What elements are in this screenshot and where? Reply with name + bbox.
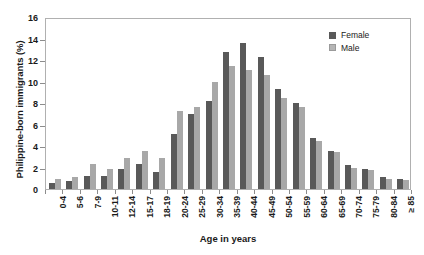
x-tick-mark [132,190,133,194]
bar-male [177,111,183,189]
x-tick-mark [341,190,342,194]
bar-male [403,180,409,189]
bar-male [107,169,113,189]
bar-male [72,177,78,189]
x-tick-label: 45-49 [267,196,277,236]
bar-group [98,19,115,189]
bar-male [229,66,235,189]
x-tick-label: 18-19 [162,196,172,236]
x-tick-mark [306,190,307,194]
bar-male [386,179,392,189]
bar-male [246,70,252,189]
y-tick-label: 0 [12,185,38,195]
bar-male [281,98,287,189]
bar-group [290,19,307,189]
bar-group [203,19,220,189]
x-tick-label: 75-79 [371,196,381,236]
x-tick-label: 10-11 [110,196,120,236]
bar-male [159,158,165,189]
x-tick-label: ≥ 85 [406,196,416,236]
x-tick-label: 15-17 [145,196,155,236]
bar-group [116,19,133,189]
legend-item-male: Male [329,44,369,53]
x-tick-label: 35-39 [232,196,242,236]
bar-male [55,179,61,189]
legend-item-female: Female [329,31,369,40]
x-tick-label: 20-24 [180,196,190,236]
x-tick-mark [289,190,290,194]
bar-male [212,82,218,190]
bar-male [264,75,270,189]
x-tick-mark [97,190,98,194]
x-tick-mark [219,190,220,194]
bar-male [142,151,148,189]
x-tick-mark [254,190,255,194]
y-tick-label: 16 [12,13,38,23]
x-tick-mark [324,190,325,194]
legend-swatch-male-icon [329,44,336,51]
x-tick-mark [167,190,168,194]
bar-male [316,141,322,189]
bar-group [220,19,237,189]
x-tick-mark [45,190,46,194]
y-tick-label: 8 [12,99,38,109]
bar-group [395,19,412,189]
bar-male [90,164,96,189]
y-tick-label: 4 [12,142,38,152]
bar-group [307,19,324,189]
x-tick-mark [376,190,377,194]
y-tick-label: 10 [12,78,38,88]
chart-legend: Female Male [329,31,369,56]
x-tick-label: 70-74 [354,196,364,236]
x-tick-mark [237,190,238,194]
bar-group [377,19,394,189]
x-tick-label: 65-69 [337,196,347,236]
x-tick-label: 7-9 [93,196,103,236]
x-tick-label: 50-54 [284,196,294,236]
bar-male [124,158,130,189]
x-tick-mark [80,190,81,194]
x-tick-mark [150,190,151,194]
x-tick-mark [394,190,395,194]
x-axis-title: Age in years [45,233,411,244]
bar-male [334,152,340,189]
bar-group [46,19,63,189]
x-tick-mark [62,190,63,194]
bar-male [194,107,200,189]
x-tick-mark [359,190,360,194]
y-tick-label: 12 [12,56,38,66]
bar-group [151,19,168,189]
x-tick-label: 80-84 [389,196,399,236]
bar-group [81,19,98,189]
x-tick-label: 55-59 [302,196,312,236]
bar-group [273,19,290,189]
legend-label-male: Male [341,44,359,53]
legend-swatch-female-icon [329,32,336,39]
chart-figure: Philippine-born immigrants (%) 024681012… [0,0,424,255]
x-tick-label: 25-29 [197,196,207,236]
y-tick-label: 6 [12,121,38,131]
bar-group [185,19,202,189]
x-tick-mark [272,190,273,194]
bar-group [63,19,80,189]
bar-male [368,170,374,189]
bar-group [133,19,150,189]
x-tick-label: 12-14 [127,196,137,236]
x-tick-label: 5-6 [75,196,85,236]
bar-group [255,19,272,189]
bar-group [168,19,185,189]
bar-male [351,168,357,190]
bar-group [238,19,255,189]
x-tick-label: 60-64 [319,196,329,236]
x-tick-label: 0-4 [58,196,68,236]
y-tick-label: 14 [12,35,38,45]
legend-label-female: Female [341,31,369,40]
x-tick-mark [202,190,203,194]
x-tick-label: 30-34 [215,196,225,236]
bar-male [299,107,305,189]
x-tick-mark [411,190,412,194]
x-tick-label: 40-44 [249,196,259,236]
x-tick-mark [184,190,185,194]
y-tick-label: 2 [12,164,38,174]
x-tick-mark [115,190,116,194]
